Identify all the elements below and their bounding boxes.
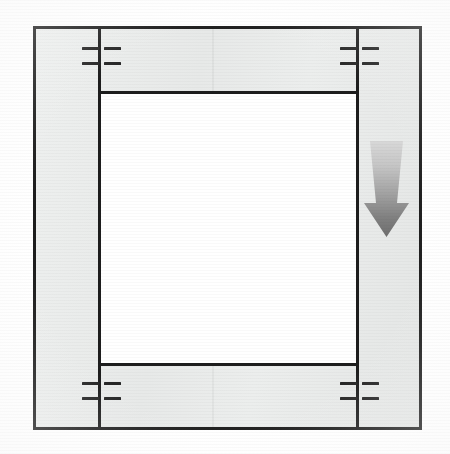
- tick-group-bottom-left: [82, 382, 122, 402]
- inner-opening: [98, 91, 359, 366]
- tick-mark: [82, 397, 99, 400]
- tick-group-bottom-right: [340, 382, 380, 402]
- tick-mark: [340, 62, 357, 65]
- tick-mark: [104, 382, 121, 385]
- tick-mark: [82, 382, 99, 385]
- tick-mark: [362, 397, 379, 400]
- tick-mark: [340, 382, 357, 385]
- figure-canvas: [0, 0, 450, 454]
- down-arrow-icon: [362, 141, 411, 237]
- tick-mark: [82, 62, 99, 65]
- tick-mark: [362, 62, 379, 65]
- tick-mark: [104, 62, 121, 65]
- tick-mark: [362, 382, 379, 385]
- tick-mark: [340, 47, 357, 50]
- tick-mark: [104, 47, 121, 50]
- tick-mark: [340, 397, 357, 400]
- tick-mark: [362, 47, 379, 50]
- frame-rail-left: [98, 26, 101, 430]
- tick-mark: [104, 397, 121, 400]
- tick-mark: [82, 47, 99, 50]
- tick-group-top-left: [82, 47, 122, 67]
- tick-group-top-right: [340, 47, 380, 67]
- frame-rail-right: [356, 26, 359, 430]
